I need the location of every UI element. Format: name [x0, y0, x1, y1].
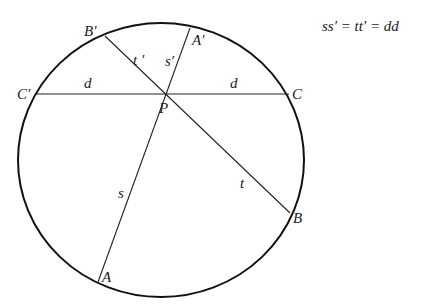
label-a-prime: A′ — [191, 32, 205, 48]
label-p: P — [158, 100, 168, 116]
label-d-right: d — [230, 75, 238, 91]
label-d-left: d — [84, 75, 92, 91]
equation: ss′ = tt′ = dd — [322, 18, 399, 34]
label-a: A — [101, 269, 112, 285]
chord-diagram: B′ A′ C′ C P B A t ′ s′ d d s t ss′ = tt… — [0, 0, 425, 308]
label-b-prime: B′ — [84, 23, 97, 39]
label-s-prime: s′ — [165, 53, 175, 69]
label-c-prime: C′ — [17, 86, 31, 102]
circle — [18, 23, 304, 297]
label-t: t — [240, 175, 245, 191]
label-s: s — [118, 185, 124, 201]
label-c: C — [292, 86, 303, 102]
label-t-prime: t ′ — [133, 52, 145, 68]
label-b: B — [293, 210, 302, 226]
